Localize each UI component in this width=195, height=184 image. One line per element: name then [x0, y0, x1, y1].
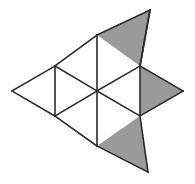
figure-container [0, 0, 195, 184]
triangular-grid-figure [0, 0, 195, 184]
